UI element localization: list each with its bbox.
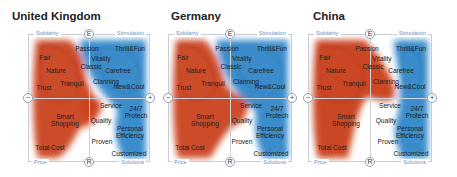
panel-title: United Kingdom bbox=[12, 10, 101, 22]
term-service: Service bbox=[100, 102, 122, 109]
axis-top-e: E bbox=[225, 29, 235, 39]
corner-stimulation: Stimulation bbox=[397, 30, 428, 37]
term-passion: Passion bbox=[215, 45, 238, 52]
axis-bottom-r: R bbox=[225, 157, 235, 167]
term-total-cost: Total Cost bbox=[317, 144, 346, 151]
corner-solutions: Solutions bbox=[401, 159, 428, 166]
axis-bottom-r: R bbox=[84, 157, 94, 167]
term-carefree: Carefree bbox=[388, 67, 414, 74]
panel-germany: Germany Solidarity Stimulation Price Sol… bbox=[152, 0, 304, 177]
term-trust: Trust bbox=[317, 84, 332, 91]
term-fair: Fair bbox=[39, 54, 50, 61]
panel-united-kingdom: United Kingdom Solidarity Stimulation Pr… bbox=[0, 0, 152, 177]
corner-price: Price bbox=[312, 159, 329, 166]
corner-price: Price bbox=[172, 159, 189, 166]
term-proven: Proven bbox=[378, 138, 399, 145]
corner-solidarity: Solidarity bbox=[314, 30, 341, 37]
axis-top-e: E bbox=[365, 29, 375, 39]
term-personal-efficiency: Personal Efficiency bbox=[116, 125, 144, 139]
corner-solutions: Solutions bbox=[261, 159, 288, 166]
term-proven: Proven bbox=[232, 138, 253, 145]
term-service: Service bbox=[240, 102, 262, 109]
term-smart-shopping: Smart Shopping bbox=[51, 113, 79, 127]
perceptual-map: Solidarity Stimulation Price Solutions E… bbox=[308, 34, 432, 162]
term-new-cool: New&Cool bbox=[254, 83, 285, 90]
term-classic: Classic bbox=[362, 63, 383, 70]
term-trust: Trust bbox=[37, 84, 52, 91]
term-fair: Fair bbox=[319, 54, 330, 61]
term-quality: Quality bbox=[91, 117, 112, 124]
term-total-cost: Total Cost bbox=[35, 144, 64, 151]
corner-stimulation: Stimulation bbox=[257, 30, 288, 37]
corner-solidarity: Solidarity bbox=[34, 30, 61, 37]
perceptual-map: Solidarity Stimulation Price Solutions E… bbox=[28, 34, 150, 162]
term-passion: Passion bbox=[355, 45, 378, 52]
term-nature: Nature bbox=[46, 67, 66, 74]
axis-bottom-r: R bbox=[365, 157, 375, 167]
term-vitality: Vitality bbox=[372, 55, 391, 62]
term-thrill-fun: Thrill&Fun bbox=[257, 45, 287, 52]
term-thrill-fun: Thrill&Fun bbox=[115, 45, 145, 52]
term-trust: Trust bbox=[177, 84, 192, 91]
term-carefree: Carefree bbox=[248, 67, 274, 74]
term-passion: Passion bbox=[75, 45, 98, 52]
corner-price: Price bbox=[32, 159, 49, 166]
term-personal-efficiency: Personal Efficiency bbox=[256, 125, 284, 139]
term-carefree: Carefree bbox=[105, 67, 131, 74]
term-classic: Classic bbox=[80, 63, 101, 70]
horizontal-axis bbox=[28, 98, 150, 99]
term-thrill-fun: Thrill&Fun bbox=[396, 45, 426, 52]
term-total-cost: Total Cost bbox=[175, 144, 204, 151]
term-classic: Classic bbox=[220, 63, 241, 70]
term-proven: Proven bbox=[92, 138, 113, 145]
term-customized: Customized bbox=[254, 150, 289, 157]
perceptual-map: Solidarity Stimulation Price Solutions E… bbox=[168, 34, 292, 162]
axis-right-plus: + bbox=[427, 93, 437, 103]
term-smart-shopping: Smart Shopping bbox=[332, 113, 360, 127]
axis-left-minus: − bbox=[303, 93, 313, 103]
panel-china: China Solidarity Stimulation Price Solut… bbox=[304, 0, 457, 177]
term-nature: Nature bbox=[326, 67, 346, 74]
panel-title: China bbox=[313, 10, 345, 22]
term-vitality: Vitality bbox=[91, 55, 110, 62]
corner-solutions: Solutions bbox=[119, 159, 146, 166]
term-24-7-protech: 24/7 Protech bbox=[125, 105, 148, 119]
term-personal-efficiency: Personal Efficiency bbox=[396, 125, 424, 139]
term-tranquil: Tranquil bbox=[342, 80, 366, 87]
term-new-cool: New&Cool bbox=[113, 83, 144, 90]
axis-left-minus: − bbox=[163, 93, 173, 103]
term-24-7-protech: 24/7 Protech bbox=[406, 105, 429, 119]
term-customized: Customized bbox=[112, 150, 147, 157]
term-customized: Customized bbox=[394, 150, 429, 157]
axis-top-e: E bbox=[84, 29, 94, 39]
panel-title: Germany bbox=[171, 10, 221, 22]
term-quality: Quality bbox=[376, 117, 397, 124]
term-quality: Quality bbox=[232, 117, 253, 124]
term-new-cool: New&Cool bbox=[394, 83, 425, 90]
horizontal-axis bbox=[308, 98, 432, 99]
term-smart-shopping: Smart Shopping bbox=[191, 113, 219, 127]
term-tranquil: Tranquil bbox=[60, 80, 84, 87]
term-service: Service bbox=[379, 102, 401, 109]
axis-left-minus: − bbox=[23, 93, 33, 103]
axis-right-plus: + bbox=[287, 93, 297, 103]
term-vitality: Vitality bbox=[232, 55, 251, 62]
term-fair: Fair bbox=[177, 54, 188, 61]
term-tranquil: Tranquil bbox=[201, 80, 225, 87]
corner-stimulation: Stimulation bbox=[115, 30, 146, 37]
horizontal-axis bbox=[168, 98, 292, 99]
term-24-7-protech: 24/7 Protech bbox=[266, 105, 289, 119]
corner-solidarity: Solidarity bbox=[174, 30, 201, 37]
term-nature: Nature bbox=[186, 67, 206, 74]
